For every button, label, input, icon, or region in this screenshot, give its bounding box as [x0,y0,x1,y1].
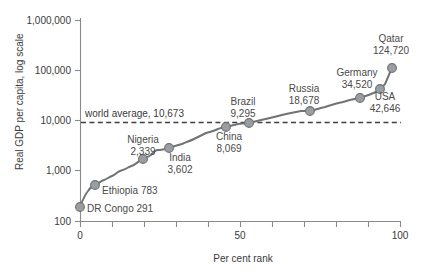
x-tick-label-100: 100 [392,230,409,241]
russia-value: 18,678 [289,95,320,106]
qatar-label: Qatar [378,33,404,44]
y-tick-label-100: 100 [54,216,71,227]
usa-value: 42,646 [370,103,401,114]
world-average-label: world average, 10,673 [84,108,184,119]
y-tick-label-10000: 10,000 [40,115,71,126]
dr-congo-label: DR Congo 291 [87,203,154,214]
y-axis-title: Real GDP per capita, log scale [14,33,25,170]
y-tick-label-1000000: 1,000,000 [27,15,72,26]
x-axis-title: Per cent rank [213,253,273,264]
usa-label: USA [375,91,396,102]
gdp-percent-rank-line-chart: 1,000,000 100,000 10,000 1,000 100 0 50 … [0,0,428,274]
y-tick-label-1000: 1,000 [46,165,71,176]
marker-ethiopia[interactable] [91,181,100,190]
china-label: China [216,131,243,142]
marker-dr-congo[interactable] [76,203,85,212]
nigeria-label: Nigeria [127,134,159,145]
ethiopia-label: Ethiopia 783 [102,185,158,196]
germany-label: Germany [336,67,377,78]
germany-value: 34,520 [342,79,373,90]
china-value: 8,069 [216,143,241,154]
x-tick-label-50: 50 [234,230,246,241]
marker-qatar[interactable] [388,64,397,73]
chart-figure: 1,000,000 100,000 10,000 1,000 100 0 50 … [0,0,428,274]
marker-brazil[interactable] [245,119,254,128]
nigeria-value: 2,339 [130,146,155,157]
marker-germany[interactable] [356,94,365,103]
brazil-label: Brazil [230,96,255,107]
marker-russia[interactable] [306,107,315,116]
y-tick-label-100000: 100,000 [35,65,72,76]
qatar-value: 124,720 [373,45,410,56]
india-value: 3,602 [167,164,192,175]
brazil-value: 9,295 [230,108,255,119]
russia-label: Russia [289,83,320,94]
x-tick-label-0: 0 [77,230,83,241]
india-label: India [169,152,191,163]
